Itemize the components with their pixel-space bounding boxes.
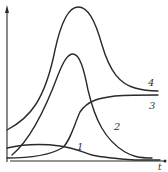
x-axis-label: t	[158, 163, 162, 172]
curve-1-label: 1	[77, 142, 83, 152]
x-axis-end-marker	[164, 160, 167, 163]
line-chart	[0, 0, 168, 172]
curve-1	[7, 145, 160, 160]
y-axis-arrow-icon	[5, 5, 9, 13]
curve-3-label: 3	[149, 101, 155, 111]
curve-4-label: 4	[148, 78, 154, 88]
curve-2-label: 2	[114, 122, 120, 132]
